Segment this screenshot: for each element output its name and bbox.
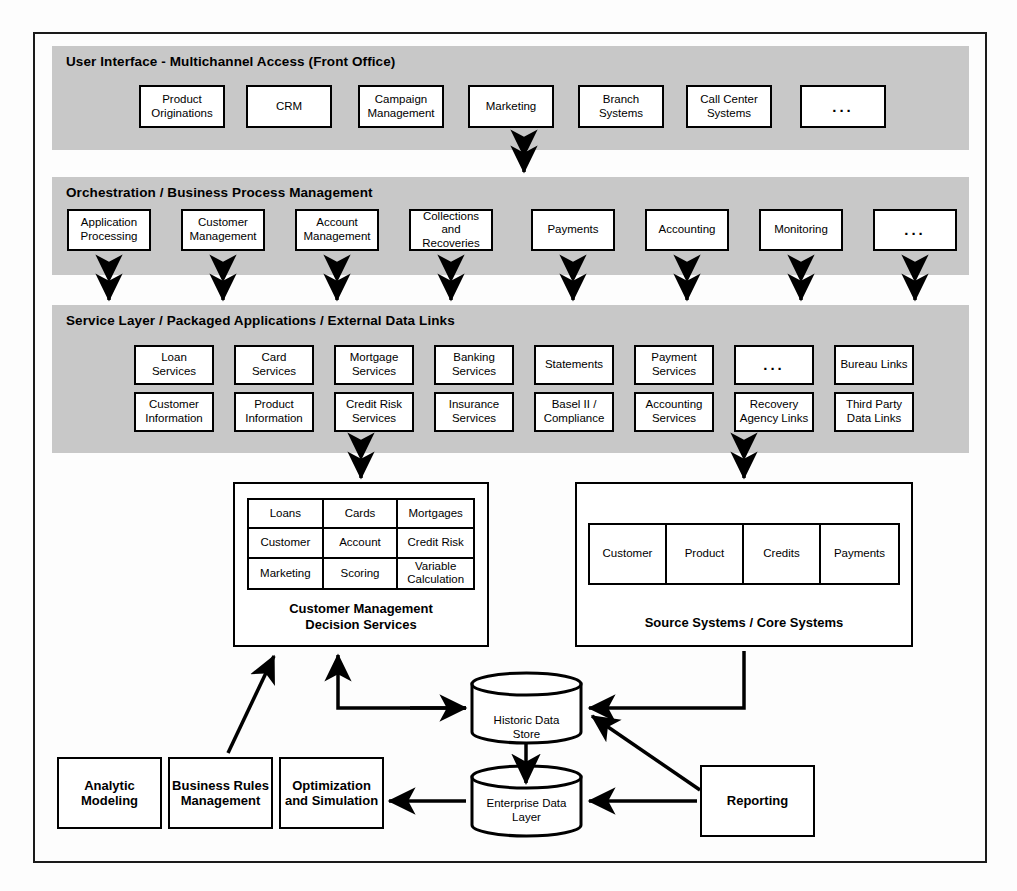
- band-orchestration-title: Orchestration / Business Process Managem…: [66, 185, 373, 200]
- svc-node-mortgage-services[interactable]: Mortgage Services: [334, 345, 414, 385]
- svc-node-accounting-services[interactable]: Accounting Services: [634, 392, 714, 432]
- source-systems-caption-text: Source Systems / Core Systems: [575, 615, 913, 631]
- decision-cell-mortgages[interactable]: Mortgages: [398, 500, 473, 529]
- decision-services-caption-line1: Customer Management: [233, 601, 489, 617]
- decision-services-caption: Customer Management Decision Services: [233, 601, 489, 634]
- svc-node-basel-compliance[interactable]: Basel II / Compliance: [534, 392, 614, 432]
- svc-node-statements[interactable]: Statements: [534, 345, 614, 385]
- historic-data-store-label: Historic Data Store: [470, 714, 583, 742]
- decision-cell-marketing[interactable]: Marketing: [249, 559, 324, 588]
- svc-node-credit-risk-services[interactable]: Credit Risk Services: [334, 392, 414, 432]
- enterprise-data-layer-line2: Layer: [470, 811, 583, 825]
- ui-node-campaign-management[interactable]: Campaign Management: [358, 85, 444, 128]
- business-rules-management-box[interactable]: Business Rules Management: [168, 757, 273, 829]
- svc-node-recovery-agency-links[interactable]: Recovery Agency Links: [734, 392, 814, 432]
- enterprise-data-layer-line1: Enterprise Data: [470, 797, 583, 811]
- decision-cell-variable-calculation[interactable]: Variable Calculation: [398, 559, 473, 588]
- svc-node-more[interactable]: ...: [734, 345, 814, 385]
- diagram-canvas: User Interface - Multichannel Access (Fr…: [0, 0, 1017, 891]
- orch-node-customer-management[interactable]: Customer Management: [181, 209, 265, 251]
- svc-node-card-services[interactable]: Card Services: [234, 345, 314, 385]
- analytic-modeling-box[interactable]: Analytic Modeling: [57, 757, 162, 829]
- orch-node-monitoring[interactable]: Monitoring: [759, 209, 843, 251]
- svc-node-payment-services[interactable]: Payment Services: [634, 345, 714, 385]
- optimization-and-simulation-box[interactable]: Optimization and Simulation: [279, 757, 384, 829]
- reporting-box[interactable]: Reporting: [700, 765, 815, 837]
- source-column-credits[interactable]: Credits: [744, 525, 821, 583]
- svc-node-third-party-data-links[interactable]: Third Party Data Links: [834, 392, 914, 432]
- enterprise-data-layer-label: Enterprise Data Layer: [470, 797, 583, 825]
- svc-node-bureau-links[interactable]: Bureau Links: [834, 345, 914, 385]
- svc-node-banking-services[interactable]: Banking Services: [434, 345, 514, 385]
- decision-cell-account[interactable]: Account: [324, 529, 399, 558]
- historic-data-store-line2: Store: [470, 728, 583, 742]
- decision-services-caption-line2: Decision Services: [233, 617, 489, 633]
- decision-cell-scoring[interactable]: Scoring: [324, 559, 399, 588]
- svc-node-product-information[interactable]: Product Information: [234, 392, 314, 432]
- ui-node-branch-systems[interactable]: Branch Systems: [578, 85, 664, 128]
- ui-node-more[interactable]: ...: [800, 85, 886, 128]
- orch-node-accounting[interactable]: Accounting: [645, 209, 729, 251]
- ui-node-product-originations[interactable]: Product Originations: [139, 85, 225, 128]
- orch-node-account-management[interactable]: Account Management: [295, 209, 379, 251]
- source-systems-grid: Customer Product Credits Payments: [588, 523, 900, 585]
- decision-cell-loans[interactable]: Loans: [249, 500, 324, 529]
- svc-node-customer-information[interactable]: Customer Information: [134, 392, 214, 432]
- source-systems-caption: Source Systems / Core Systems: [575, 615, 913, 631]
- source-column-product[interactable]: Product: [667, 525, 744, 583]
- decision-cell-cards[interactable]: Cards: [324, 500, 399, 529]
- orch-node-application-processing[interactable]: Application Processing: [67, 209, 151, 251]
- source-column-customer[interactable]: Customer: [590, 525, 667, 583]
- band-user-interface-title: User Interface - Multichannel Access (Fr…: [66, 54, 395, 69]
- historic-data-store-line1: Historic Data: [470, 714, 583, 728]
- ui-node-crm[interactable]: CRM: [246, 85, 332, 128]
- source-column-payments[interactable]: Payments: [821, 525, 898, 583]
- svc-node-insurance-services[interactable]: Insurance Services: [434, 392, 514, 432]
- svc-node-loan-services[interactable]: Loan Services: [134, 345, 214, 385]
- orch-node-more[interactable]: ...: [873, 209, 957, 251]
- ui-node-marketing[interactable]: Marketing: [468, 85, 554, 128]
- ui-node-call-center-systems[interactable]: Call Center Systems: [686, 85, 772, 128]
- orch-node-collections-and-recoveries[interactable]: Collections and Recoveries: [409, 209, 493, 251]
- historic-data-store[interactable]: Historic Data Store: [470, 672, 583, 744]
- band-service-layer-title: Service Layer / Packaged Applications / …: [66, 313, 455, 328]
- decision-services-grid: Loans Cards Mortgages Customer Account C…: [247, 498, 475, 590]
- decision-cell-credit-risk[interactable]: Credit Risk: [398, 529, 473, 558]
- enterprise-data-layer[interactable]: Enterprise Data Layer: [470, 765, 583, 837]
- decision-cell-customer[interactable]: Customer: [249, 529, 324, 558]
- orch-node-payments[interactable]: Payments: [531, 209, 615, 251]
